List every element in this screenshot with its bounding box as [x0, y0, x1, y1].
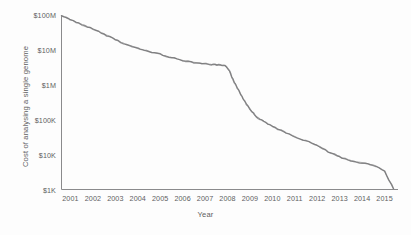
chart-figure: $100M$10M$1M$100K$10K$1K 200120022003200… [0, 0, 411, 235]
y-axis-title: Cost of analysing a single genome [21, 22, 30, 192]
x-tick-label: 2015 [376, 194, 392, 203]
x-tick-label: 2009 [242, 194, 258, 203]
x-axis-title: Year [0, 210, 411, 219]
x-tick-label: 2002 [85, 194, 101, 203]
x-tick-label: 2005 [152, 194, 168, 203]
x-tick-label: 2011 [287, 194, 303, 203]
x-tick-label: 2012 [309, 194, 325, 203]
x-tick-label: 2014 [354, 194, 370, 203]
x-tick-label: 2008 [219, 194, 235, 203]
x-tick-label: 2006 [174, 194, 190, 203]
y-tick-label: $100M [0, 11, 56, 20]
x-tick-label: 2010 [264, 194, 280, 203]
data-series-line-texture [62, 16, 394, 189]
data-series-line [62, 16, 394, 189]
x-tick-label: 2004 [130, 194, 146, 203]
x-tick-label: 2001 [62, 194, 78, 203]
x-tick-label: 2003 [107, 194, 123, 203]
x-tick-label: 2007 [197, 194, 213, 203]
x-tick-label: 2013 [331, 194, 347, 203]
